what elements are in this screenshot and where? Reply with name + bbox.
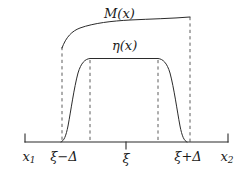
- axis-label-xi: ξ: [122, 152, 129, 165]
- curve-eta: [61, 59, 187, 143]
- axis-label-xi-plus-delta: ξ+Δ: [174, 150, 201, 163]
- figure-container: M(x) η(x) x1 ξ−Δ ξ ξ+Δ x2: [0, 0, 250, 174]
- dashed-reference-lines: [62, 17, 190, 142]
- figure-plot-area: [0, 0, 250, 174]
- label-eta: η(x): [112, 39, 137, 52]
- axis-label-x1: x1: [22, 150, 35, 165]
- label-capital-m: M(x): [104, 7, 135, 20]
- axis-label-x2-sub: 2: [228, 155, 234, 165]
- axis-label-xi-minus-delta: ξ−Δ: [50, 150, 77, 163]
- axis-label-x2: x2: [220, 150, 233, 165]
- axis-label-x1-sub: 1: [30, 155, 36, 165]
